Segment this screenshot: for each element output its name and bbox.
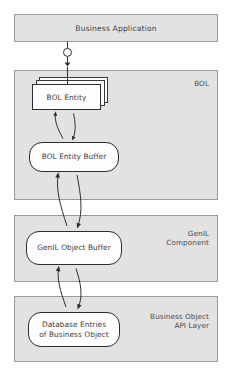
architecture-diagram: Business Application – BOL BOL Entity BO… [0,0,230,379]
layer-business-object-api-label: Business Object API Layer [150,312,209,330]
bol-entity-buffer-node[interactable]: BOL Entity Buffer [29,142,119,172]
database-entries-label: Database Entries of Business Object [35,320,112,339]
genil-object-buffer-node[interactable]: GenIL Object Buffer [26,231,122,265]
database-entries-node[interactable]: Database Entries of Business Object [28,312,120,347]
genil-object-buffer-label: GenIL Object Buffer [33,243,115,252]
bol-entity-box[interactable]: BOL Entity [32,84,101,110]
layer-genil-component-label: GenIL Component [166,229,209,247]
bol-entity-buffer-label: BOL Entity Buffer [38,152,111,161]
bol-entity-label: BOL Entity [47,93,87,102]
